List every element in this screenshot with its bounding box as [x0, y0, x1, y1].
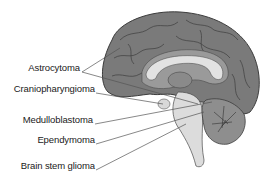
label-brain-stem-glioma: Brain stem glioma — [21, 160, 95, 171]
pituitary — [158, 99, 170, 109]
brain-diagram: Astrocytoma Craniopharyngioma Medullobla… — [0, 0, 266, 184]
thalamus — [168, 72, 192, 88]
label-craniopharyngioma: Craniopharyngioma — [14, 83, 95, 94]
brainstem — [173, 92, 204, 167]
label-ependymoma: Ependymoma — [37, 134, 95, 145]
label-medulloblastoma: Medulloblastoma — [23, 114, 93, 125]
label-astrocytoma: Astrocytoma — [28, 62, 80, 73]
